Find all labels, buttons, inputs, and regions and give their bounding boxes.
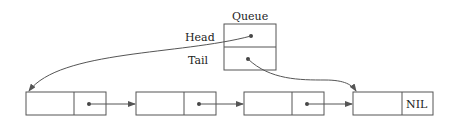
head-label: Head [185,31,215,44]
nil-label: NIL [406,98,428,111]
queue-linked-list-diagram: Queue Head Tail NIL [0,0,457,125]
list-node-4: NIL [353,92,433,115]
tail-label: Tail [188,54,209,67]
queue-title: Queue [232,10,268,23]
head-arrow [29,36,251,91]
